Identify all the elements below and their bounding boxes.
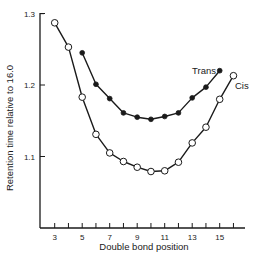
cis-data-point	[134, 164, 141, 171]
axes: 1.11.21.33579111315	[24, 10, 245, 243]
cis-series-label: Cis	[235, 80, 249, 91]
trans-series-label: Trans	[192, 65, 216, 76]
trans-data-point	[204, 85, 209, 90]
series-cis	[51, 19, 236, 174]
y-axis-label: Retention time relative to 16.0	[4, 65, 15, 191]
cis-data-point	[161, 168, 168, 175]
series-trans	[80, 50, 222, 121]
cis-data-point	[148, 168, 155, 175]
trans-data-point	[149, 117, 154, 122]
x-tick-label: 15	[215, 233, 224, 242]
trans-data-point	[94, 82, 99, 87]
cis-data-point	[216, 96, 223, 103]
x-tick-label: 5	[80, 233, 85, 242]
series-group	[51, 19, 236, 174]
cis-data-point	[93, 131, 100, 138]
cis-data-point	[189, 140, 196, 147]
x-tick-label: 3	[52, 233, 57, 242]
trans-data-point	[190, 95, 195, 100]
y-tick-label: 1.3	[24, 10, 36, 19]
trans-data-point	[176, 110, 181, 115]
retention-time-chart: 1.11.21.33579111315 Double bond position…	[0, 0, 258, 259]
trans-data-point	[80, 50, 85, 55]
cis-data-point	[120, 158, 127, 165]
x-tick-label: 13	[188, 233, 197, 242]
cis-data-point	[175, 159, 182, 166]
cis-data-point	[51, 19, 58, 26]
cis-data-point	[79, 94, 86, 101]
trans-line	[82, 53, 220, 120]
x-axis-label: Double bond position	[99, 241, 188, 252]
trans-data-point	[107, 96, 112, 101]
trans-data-point	[121, 110, 126, 115]
chart-canvas: 1.11.21.33579111315 Double bond position…	[0, 0, 258, 259]
trans-data-point	[135, 115, 140, 120]
cis-data-point	[65, 44, 72, 51]
cis-data-point	[230, 72, 237, 79]
cis-data-point	[106, 150, 113, 157]
trans-data-point	[162, 114, 167, 119]
y-tick-label: 1.2	[24, 81, 36, 90]
trans-data-point	[217, 68, 222, 73]
y-tick-label: 1.1	[24, 153, 36, 162]
cis-data-point	[203, 124, 210, 131]
